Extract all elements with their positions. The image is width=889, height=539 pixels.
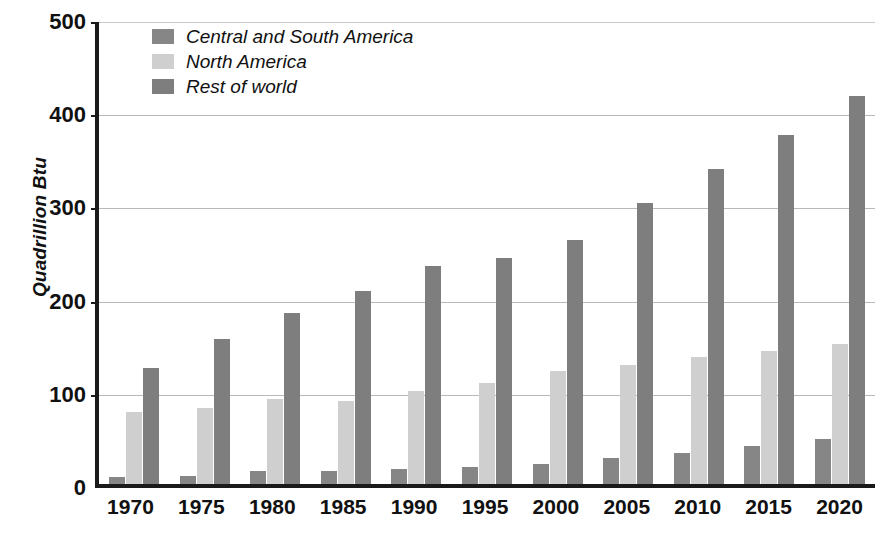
bar[interactable] (778, 135, 794, 484)
legend-item[interactable]: North America (152, 51, 413, 72)
y-tick-label: 200 (20, 289, 86, 315)
legend-label: Rest of world (186, 76, 297, 98)
bar[interactable] (849, 96, 865, 484)
x-tick-label: 1985 (308, 495, 379, 519)
x-tick-label: 2015 (733, 495, 804, 519)
bar-group (452, 22, 523, 484)
y-tick-mark (91, 208, 99, 210)
y-tick-label: 400 (20, 102, 86, 128)
bar[interactable] (126, 412, 142, 484)
bar[interactable] (674, 453, 690, 484)
bar[interactable] (408, 391, 424, 484)
legend-item[interactable]: Central and South America (152, 26, 413, 47)
legend-item[interactable]: Rest of world (152, 76, 413, 97)
bar[interactable] (355, 291, 371, 484)
y-axis-tick-labels: 0100200300400500 (20, 0, 86, 539)
bar[interactable] (462, 467, 478, 484)
bar[interactable] (603, 458, 619, 484)
x-tick-label: 1980 (237, 495, 308, 519)
y-tick-mark (91, 395, 99, 397)
bar[interactable] (832, 344, 848, 484)
bar[interactable] (550, 371, 566, 484)
bar[interactable] (479, 383, 495, 484)
x-tick-label: 2010 (662, 495, 733, 519)
bar-group (522, 22, 593, 484)
bar[interactable] (284, 313, 300, 484)
bar[interactable] (267, 399, 283, 484)
legend-swatch-icon (152, 79, 174, 94)
bar[interactable] (620, 365, 636, 484)
y-tick-mark (91, 22, 99, 24)
bar-group (804, 22, 875, 484)
x-tick-label: 2020 (804, 495, 875, 519)
bar[interactable] (109, 477, 125, 484)
y-tick-label: 100 (20, 382, 86, 408)
y-tick-label: 500 (20, 9, 86, 35)
bar[interactable] (744, 446, 760, 484)
y-tick-label: 300 (20, 195, 86, 221)
bar[interactable] (637, 203, 653, 484)
bar[interactable] (321, 471, 337, 484)
legend: Central and South AmericaNorth AmericaRe… (152, 26, 413, 97)
bar[interactable] (533, 464, 549, 485)
legend-swatch-icon (152, 29, 174, 44)
bar[interactable] (691, 357, 707, 484)
x-axis-tick-labels: 1970197519801985199019952000200520102015… (95, 495, 875, 519)
bar[interactable] (815, 439, 831, 484)
y-tick-mark (91, 302, 99, 304)
bar[interactable] (180, 476, 196, 484)
bar[interactable] (214, 339, 230, 484)
bar-group (593, 22, 664, 484)
bar[interactable] (761, 351, 777, 484)
legend-swatch-icon (152, 54, 174, 69)
legend-label: Central and South America (186, 26, 413, 48)
y-tick-mark (91, 115, 99, 117)
bar[interactable] (425, 266, 441, 484)
bar[interactable] (143, 368, 159, 485)
x-tick-label: 1970 (95, 495, 166, 519)
bar[interactable] (338, 401, 354, 484)
bar[interactable] (250, 471, 266, 484)
x-tick-label: 1990 (379, 495, 450, 519)
bar-chart: Quadrillion Btu 0100200300400500 1970197… (0, 0, 889, 539)
bar-group (734, 22, 805, 484)
bar[interactable] (708, 169, 724, 484)
bar[interactable] (197, 408, 213, 484)
bar-group (663, 22, 734, 484)
x-tick-label: 1975 (166, 495, 237, 519)
bar[interactable] (391, 469, 407, 484)
y-tick-label: 0 (20, 475, 86, 501)
x-tick-label: 1995 (450, 495, 521, 519)
legend-label: North America (186, 51, 307, 73)
bar[interactable] (496, 258, 512, 484)
bar[interactable] (567, 240, 583, 484)
x-tick-label: 2000 (520, 495, 591, 519)
x-tick-label: 2005 (591, 495, 662, 519)
